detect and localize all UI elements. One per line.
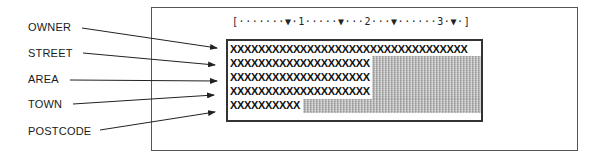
arrow-town xyxy=(73,95,214,104)
pointer-arrows xyxy=(0,0,605,159)
arrow-area xyxy=(70,80,217,81)
arrow-owner xyxy=(82,28,217,48)
arrow-street xyxy=(83,53,215,65)
arrow-postcode xyxy=(100,112,215,130)
